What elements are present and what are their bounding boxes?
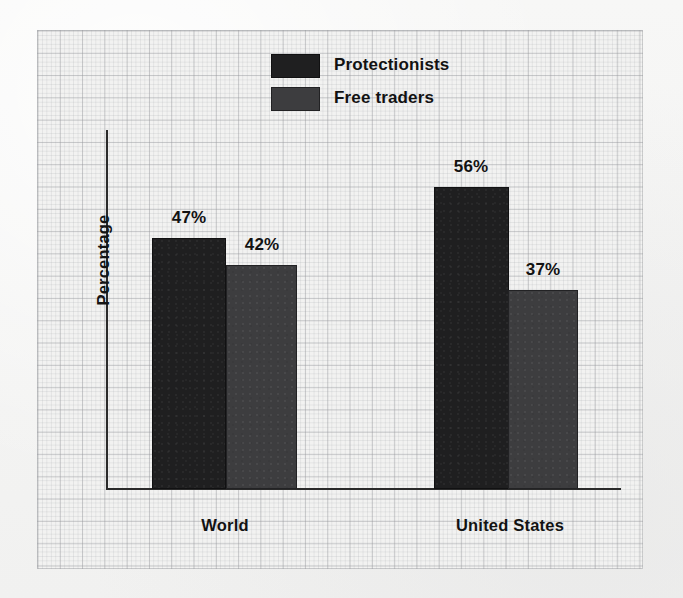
bar-world-free-traders[interactable] — [226, 265, 297, 489]
bar-value-label-world-protectionists: 47% — [149, 208, 229, 228]
x-axis-group-label-world: World — [165, 516, 285, 535]
y-axis-title: Percentage — [94, 200, 113, 320]
legend-swatch-free-traders — [271, 87, 320, 111]
chart-canvas: Percentage 47% 42% World 56% 37% United … — [0, 0, 683, 598]
bar-world-protectionists[interactable] — [152, 238, 226, 489]
bar-value-label-united-states-free-traders: 37% — [503, 260, 583, 280]
legend-label-protectionists: Protectionists — [334, 55, 449, 75]
legend-swatch-protectionists — [271, 54, 320, 78]
x-axis-group-label-united-states: United States — [440, 516, 580, 535]
bar-value-label-united-states-protectionists: 56% — [431, 157, 511, 177]
bar-united-states-free-traders[interactable] — [508, 290, 578, 489]
bar-united-states-protectionists[interactable] — [434, 187, 509, 489]
legend-label-free-traders: Free traders — [334, 88, 434, 108]
plot-area: Percentage 47% 42% World 56% 37% United … — [0, 0, 683, 598]
bar-value-label-world-free-traders: 42% — [222, 235, 302, 255]
